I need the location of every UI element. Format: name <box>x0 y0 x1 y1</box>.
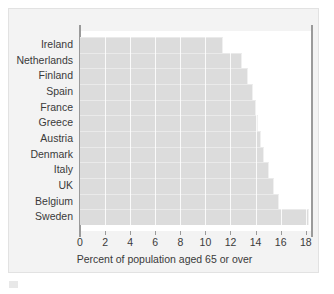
bar-greece <box>80 115 258 131</box>
y-axis-label-austria: Austria <box>9 131 77 147</box>
y-axis-label-belgium: Belgium <box>9 194 77 210</box>
bar-italy <box>80 162 269 178</box>
x-tick-mark-6 <box>155 231 156 235</box>
bar-sweden <box>80 209 309 225</box>
y-axis-label-greece: Greece <box>9 115 77 131</box>
y-axis-label-finland: Finland <box>9 68 77 84</box>
bar-spain <box>80 84 253 100</box>
x-tick-mark-12 <box>230 231 231 235</box>
y-axis-label-ireland: Ireland <box>9 37 77 53</box>
y-axis-category-labels: IrelandNetherlandsFinlandSpainFranceGree… <box>9 37 77 225</box>
x-tick-mark-14 <box>256 231 257 235</box>
x-tick-label-6: 6 <box>152 236 158 248</box>
x-tick-label-14: 14 <box>250 236 262 248</box>
bar-series <box>80 37 312 225</box>
bar-austria <box>80 131 261 147</box>
x-tick-mark-0 <box>80 231 81 235</box>
bar-row <box>80 194 312 210</box>
x-tick-label-12: 12 <box>225 236 237 248</box>
x-tick-mark-10 <box>205 231 206 235</box>
caption-marker <box>9 281 18 288</box>
y-axis-label-spain: Spain <box>9 84 77 100</box>
bar-ireland <box>80 37 223 53</box>
x-tick-mark-4 <box>130 231 131 235</box>
x-tick-mark-16 <box>281 231 282 235</box>
bar-row <box>80 84 312 100</box>
x-tick-mark-2 <box>105 231 106 235</box>
x-axis-ticks: 024681012141618 <box>80 231 312 253</box>
bar-row <box>80 147 312 163</box>
bar-row <box>80 100 312 116</box>
chart-figure: IrelandNetherlandsFinlandSpainFranceGree… <box>8 8 319 273</box>
x-tick-label-4: 4 <box>127 236 133 248</box>
x-tick-label-10: 10 <box>200 236 212 248</box>
bar-france <box>80 100 256 116</box>
x-tick-label-2: 2 <box>102 236 108 248</box>
x-tick-label-0: 0 <box>77 236 83 248</box>
x-tick-mark-18 <box>306 231 307 235</box>
bar-row <box>80 209 312 225</box>
bar-finland <box>80 68 248 84</box>
bar-row <box>80 68 312 84</box>
y-axis-label-italy: Italy <box>9 162 77 178</box>
y-axis-label-netherlands: Netherlands <box>9 53 77 69</box>
x-tick-label-16: 16 <box>275 236 287 248</box>
bar-row <box>80 53 312 69</box>
y-axis-label-denmark: Denmark <box>9 147 77 163</box>
x-axis-title: Percent of population aged 65 or over <box>9 253 320 265</box>
bar-denmark <box>80 147 264 163</box>
bar-row <box>80 37 312 53</box>
bar-belgium <box>80 194 279 210</box>
x-tick-mark-8 <box>180 231 181 235</box>
bar-row <box>80 178 312 194</box>
y-axis-label-uk: UK <box>9 178 77 194</box>
bar-uk <box>80 178 274 194</box>
x-tick-label-18: 18 <box>300 236 312 248</box>
bar-row <box>80 115 312 131</box>
y-axis-label-sweden: Sweden <box>9 209 77 225</box>
bar-row <box>80 162 312 178</box>
y-axis-label-france: France <box>9 100 77 116</box>
plot-area <box>80 31 312 231</box>
bar-netherlands <box>80 53 242 69</box>
x-tick-label-8: 8 <box>177 236 183 248</box>
bar-row <box>80 131 312 147</box>
